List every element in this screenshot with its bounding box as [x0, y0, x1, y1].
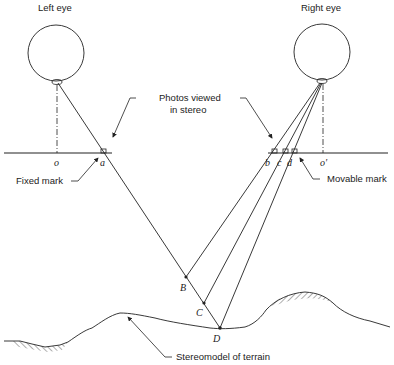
terrain-label: Stereomodel of terrain — [176, 351, 270, 362]
fixed-mark-label: Fixed mark — [16, 175, 63, 186]
point-D — [218, 326, 222, 330]
terrain-hatch-right — [268, 292, 333, 306]
point-label-a: a — [100, 157, 105, 168]
point-label-c: c — [277, 157, 281, 168]
right-ray-C — [204, 83, 321, 303]
point-label-d: d — [287, 157, 292, 168]
right-eye-icon — [294, 24, 350, 84]
point-label-o-prime: o′ — [320, 157, 327, 168]
fixed-mark-leader — [71, 158, 98, 181]
photos-label-line1: Photos viewed — [159, 92, 221, 103]
point-label-b: b — [265, 157, 270, 168]
diagram-canvas: Left eye Right eye Photos viewed in ster… — [0, 0, 394, 365]
left-eye-icon — [28, 25, 84, 85]
photos-label-line2: in stereo — [170, 104, 206, 115]
movable-mark-label: Movable mark — [327, 173, 387, 184]
point-label-C: C — [196, 307, 203, 318]
terrain-leader — [128, 317, 172, 357]
point-C — [202, 301, 205, 304]
terrain-profile — [4, 292, 390, 347]
photos-leader-right — [240, 98, 272, 138]
movable-mark-leader — [300, 158, 320, 179]
left-ray — [58, 83, 220, 328]
photos-leader-left — [113, 98, 136, 137]
point-label-o: o — [54, 157, 59, 168]
point-label-D: D — [213, 333, 220, 344]
terrain-hatch-left — [10, 341, 68, 352]
point-B — [184, 275, 187, 278]
right-eye-label: Right eye — [301, 2, 341, 13]
left-eye-label: Left eye — [38, 2, 72, 13]
point-label-B: B — [180, 282, 186, 293]
